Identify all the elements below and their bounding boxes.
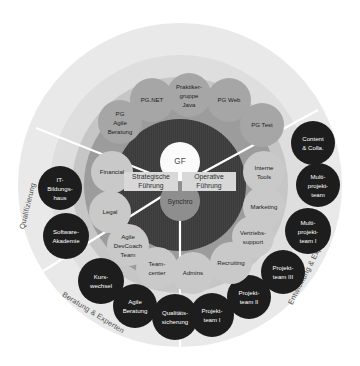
bubble-line-1: Projekt- bbox=[273, 264, 294, 271]
bubble-line-2: wechsel bbox=[89, 282, 112, 289]
bubble-line-1: Financial bbox=[100, 168, 124, 175]
bubble-line-1: Projekt- bbox=[239, 289, 260, 296]
bubble-line-3: team bbox=[311, 191, 325, 198]
outer-unit-projektteam-iii[interactable]: Projekt- team III bbox=[261, 250, 305, 294]
bubble-line-1: Projekt- bbox=[202, 307, 223, 314]
outer-unit-content-colla[interactable]: Content & Colla. bbox=[291, 121, 335, 165]
bubble-line-1: Admins bbox=[183, 269, 203, 276]
inner-unit-teamcenter[interactable]: Team- center bbox=[136, 247, 178, 289]
bubble-line-2: Beratung bbox=[123, 307, 148, 314]
practice-group-praktikergruppe-java[interactable]: Praktiker- gruppe Java bbox=[167, 73, 211, 117]
bubble-line-3: Team bbox=[121, 251, 136, 258]
bubble-line-1: Multi- bbox=[301, 219, 316, 226]
strategische-fuehrung-line-1: Strategische bbox=[132, 173, 170, 181]
bubble-line-2: Bildungs- bbox=[47, 185, 72, 192]
bubble-line-2: team II bbox=[240, 298, 259, 305]
bubble-line-1: Software- bbox=[53, 228, 79, 235]
bubble-line-1: Praktiker- bbox=[176, 83, 202, 90]
bubble-line-1: Qualitäts- bbox=[162, 309, 188, 316]
bubble-line-3: team I bbox=[300, 237, 317, 244]
bubble-line-2: Tools bbox=[257, 173, 271, 180]
bubble-line-2: gruppe bbox=[180, 92, 200, 99]
outer-unit-it-bildungshaus[interactable]: IT- Bildungs- haus bbox=[38, 166, 82, 210]
bubble-line-2: projekt- bbox=[308, 182, 328, 189]
bubble-line-1: PG bbox=[116, 110, 125, 117]
bubble-line-3: haus bbox=[53, 194, 66, 201]
org-circle-diagram: Qualifizierung Beratung & Experten Entwi… bbox=[0, 0, 360, 366]
inner-unit-admins[interactable]: Admins bbox=[172, 252, 214, 294]
operative-fuehrung-line-1: Operative bbox=[194, 173, 224, 181]
practice-group-pg-net[interactable]: PG.NET bbox=[130, 78, 174, 122]
bubble-line-3: Java bbox=[183, 101, 196, 108]
outer-unit-multiprojektteam[interactable]: Multi- projekt- team bbox=[296, 163, 340, 207]
bubble-line-3: Beratung bbox=[108, 128, 133, 135]
bubble-line-1: Vertriebs- bbox=[240, 229, 266, 236]
bubble-line-1: PG Test bbox=[251, 121, 273, 128]
bubble-line-2: team I bbox=[204, 316, 221, 323]
synchro-label: Synchro bbox=[168, 198, 193, 206]
bubble-line-2: & Colla. bbox=[302, 144, 324, 151]
practice-group-pg-test[interactable]: PG Test bbox=[240, 103, 284, 147]
bubble-line-2: Akademie bbox=[52, 237, 80, 244]
bubble-line-2: DevCoach bbox=[114, 242, 142, 249]
bubble-line-1: Legal bbox=[103, 208, 118, 215]
bubble-line-2: center bbox=[149, 269, 166, 276]
bubble-line-1: Multi- bbox=[311, 173, 326, 180]
org-circle-svg: Qualifizierung Beratung & Experten Entwi… bbox=[0, 0, 360, 366]
bubble-line-1: Marketing bbox=[251, 203, 278, 210]
bubble-line-2: support bbox=[243, 238, 264, 245]
outer-unit-multiprojektteam-i[interactable]: Multi- projekt- team I bbox=[285, 208, 331, 254]
bubble-line-2: projekt- bbox=[298, 228, 318, 235]
inner-unit-interne-tools[interactable]: Interne Tools bbox=[243, 151, 285, 193]
bubble-line-1: PG Web bbox=[218, 96, 242, 103]
bubble-line-1: Team- bbox=[149, 260, 166, 267]
operative-fuehrung-line-2: Führung bbox=[196, 182, 222, 190]
bubble-line-1: PG.NET bbox=[141, 96, 164, 103]
bubble-line-1: IT- bbox=[56, 176, 63, 183]
outer-unit-agile-beratung[interactable]: Agile Beratung bbox=[113, 284, 157, 328]
bubble-line-2: Agile bbox=[113, 119, 127, 126]
bubble-line-1: Agile bbox=[121, 233, 135, 240]
strategische-fuehrung-line-2: Führung bbox=[138, 182, 164, 190]
bubble-line-2: sicherung bbox=[162, 318, 188, 325]
bubble-line-1: Content bbox=[302, 135, 324, 142]
bubble-line-1: Kurs- bbox=[94, 273, 109, 280]
bubble-line-1: Recruiting bbox=[217, 259, 244, 266]
gf-label: GF bbox=[174, 157, 185, 166]
bubble-line-1: Agile bbox=[128, 298, 142, 305]
bubble-line-1: Interne bbox=[255, 164, 275, 171]
outer-unit-software-akademie[interactable]: Software- Akademie bbox=[43, 213, 89, 259]
bubble-line-2: team III bbox=[273, 273, 294, 280]
